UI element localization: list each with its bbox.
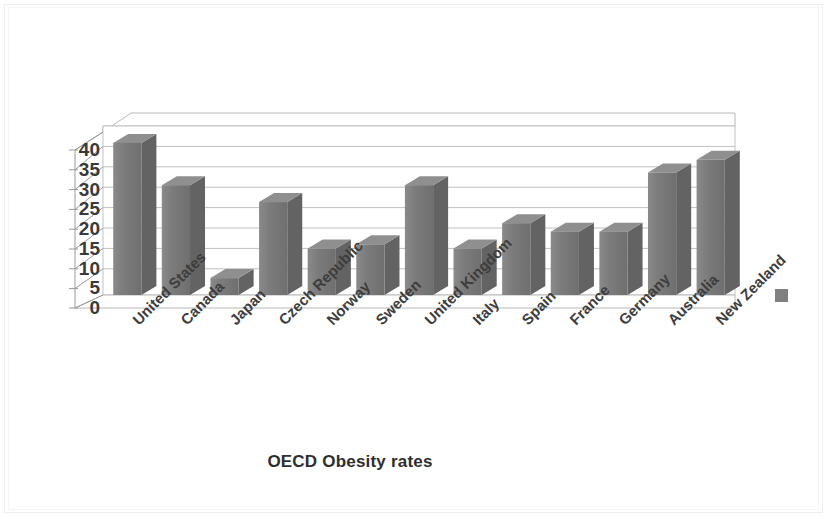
x-axis-category-labels: United StatesCanadaJapanCzech RepublicNo… bbox=[0, 0, 829, 519]
x-tick-label: Czech Republic bbox=[275, 237, 366, 328]
x-tick-label: Australia bbox=[664, 271, 721, 328]
x-tick-label: Norway bbox=[323, 278, 373, 328]
x-tick-label: Canada bbox=[177, 278, 227, 328]
x-tick-label: Italy bbox=[469, 295, 502, 328]
chart-title: OECD Obesity rates bbox=[0, 452, 700, 472]
x-tick-label: United Kingdom bbox=[421, 234, 515, 328]
x-tick-label: France bbox=[566, 281, 613, 328]
chart-page: 4035302520151050 United StatesCanadaJapa… bbox=[0, 0, 829, 519]
chart-legend bbox=[775, 289, 788, 302]
x-tick-label: Japan bbox=[226, 285, 269, 328]
x-tick-label: Sweden bbox=[372, 276, 424, 328]
x-tick-label: Spain bbox=[518, 287, 559, 328]
legend-color-swatch bbox=[775, 289, 788, 302]
oecd-obesity-bar-chart: 4035302520151050 United StatesCanadaJapa… bbox=[0, 0, 829, 519]
x-tick-label: Germany bbox=[615, 270, 673, 328]
